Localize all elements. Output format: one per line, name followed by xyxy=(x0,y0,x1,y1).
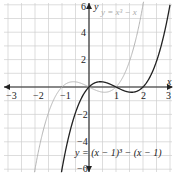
x-axis-label: x xyxy=(166,76,172,87)
light-curve-equation: y = x³ − x xyxy=(100,7,137,17)
arrow-up-icon xyxy=(86,3,92,9)
dark-curve-equation: y = (x − 1)³ − (x − 1) xyxy=(74,147,162,159)
y-axis-label: y xyxy=(93,1,99,12)
tick-x-neg2: −2 xyxy=(33,90,44,101)
tick-x-2: 2 xyxy=(141,90,146,101)
tick-y-2: 2 xyxy=(81,54,86,65)
graph-figure: −3 −2 −1 1 2 3 x 6 4 2 −2 −4 −6 y y = x³… xyxy=(0,0,175,173)
tick-x-neg3: −3 xyxy=(6,90,17,101)
tick-y-6: 6 xyxy=(81,1,86,12)
tick-x-1: 1 xyxy=(114,90,119,101)
tick-y-neg2: −2 xyxy=(77,109,88,120)
tick-x-3: 3 xyxy=(166,90,171,101)
tick-y-neg4: −4 xyxy=(77,136,88,147)
tick-x-neg1: −1 xyxy=(60,90,71,101)
plot-svg: −3 −2 −1 1 2 3 x 6 4 2 −2 −4 −6 y y = x³… xyxy=(0,0,175,173)
tick-y-4: 4 xyxy=(81,27,86,38)
tick-y-neg6: −6 xyxy=(77,163,88,173)
